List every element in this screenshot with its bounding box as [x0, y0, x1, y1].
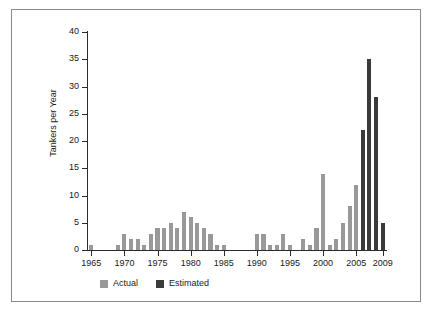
y-tick-label: 0: [39, 245, 79, 254]
bar: [334, 239, 338, 250]
y-tick-mark: [82, 141, 87, 142]
bar: [381, 223, 385, 250]
x-tick-mark: [383, 251, 384, 256]
x-tick-mark: [191, 251, 192, 256]
x-tick-label: 1985: [207, 258, 241, 268]
bar: [367, 59, 371, 250]
y-tick-label: 40: [39, 27, 79, 36]
x-tick-label: 2009: [366, 258, 400, 268]
legend-swatch-icon: [100, 280, 108, 288]
legend-label: Estimated: [169, 279, 209, 288]
legend-item-actual[interactable]: Actual: [100, 279, 138, 288]
bar: [348, 206, 352, 250]
bar: [155, 228, 159, 250]
x-tick-mark: [124, 251, 125, 256]
bar: [215, 245, 219, 250]
bar: [116, 245, 120, 250]
y-tick-mark: [82, 250, 87, 251]
y-tick-mark: [82, 223, 87, 224]
x-tick-mark: [91, 251, 92, 256]
x-tick-label: 2000: [306, 258, 340, 268]
bar: [89, 245, 93, 250]
bar: [149, 234, 153, 250]
y-tick-label: 25: [39, 109, 79, 118]
bar: [314, 228, 318, 250]
bar: [321, 174, 325, 250]
y-tick-label: 5: [39, 218, 79, 227]
x-tick-mark: [290, 251, 291, 256]
bar: [122, 234, 126, 250]
bar: [208, 234, 212, 250]
x-tick-mark: [323, 251, 324, 256]
figure: Tankers per Year 0510152025303540 196519…: [0, 0, 432, 313]
y-tick-mark: [82, 59, 87, 60]
y-tick-mark: [82, 168, 87, 169]
x-tick-label: 1995: [273, 258, 307, 268]
y-tick-label: 20: [39, 136, 79, 145]
bar: [328, 245, 332, 250]
legend-label: Actual: [113, 279, 138, 288]
bar: [182, 212, 186, 250]
x-tick-mark: [356, 251, 357, 256]
x-tick-label: 1980: [174, 258, 208, 268]
bar: [142, 245, 146, 250]
legend-swatch-icon: [156, 280, 164, 288]
x-axis-line: [87, 250, 387, 251]
y-tick-label: 30: [39, 82, 79, 91]
x-tick-label: 1975: [141, 258, 175, 268]
bar: [275, 245, 279, 250]
bar: [222, 245, 226, 250]
bar: [169, 223, 173, 250]
x-tick-mark: [257, 251, 258, 256]
bar: [195, 223, 199, 250]
bar: [175, 228, 179, 250]
y-tick-mark: [82, 114, 87, 115]
bar: [288, 245, 292, 250]
legend-item-estimated[interactable]: Estimated: [156, 279, 209, 288]
y-tick-mark: [82, 87, 87, 88]
bar: [374, 97, 378, 250]
bar: [202, 228, 206, 250]
y-tick-label: 35: [39, 54, 79, 63]
x-tick-mark: [158, 251, 159, 256]
bar: [255, 234, 259, 250]
x-tick-mark: [224, 251, 225, 256]
x-tick-label: 1990: [240, 258, 274, 268]
bar: [281, 234, 285, 250]
bar: [268, 245, 272, 250]
bar: [162, 228, 166, 250]
y-tick-mark: [82, 196, 87, 197]
bar: [129, 239, 133, 250]
x-tick-label: 1970: [107, 258, 141, 268]
bar: [301, 239, 305, 250]
y-tick-mark: [82, 32, 87, 33]
bar: [136, 239, 140, 250]
y-tick-label: 15: [39, 163, 79, 172]
chart-legend: ActualEstimated: [100, 279, 209, 288]
bar-series-container: [88, 32, 386, 250]
bar: [361, 130, 365, 250]
y-tick-label: 10: [39, 191, 79, 200]
bar: [261, 234, 265, 250]
y-axis-labels: 0510152025303540: [35, 0, 79, 313]
x-tick-label: 1965: [74, 258, 108, 268]
bar: [341, 223, 345, 250]
bar: [189, 217, 193, 250]
bar: [308, 245, 312, 250]
bar: [354, 185, 358, 250]
